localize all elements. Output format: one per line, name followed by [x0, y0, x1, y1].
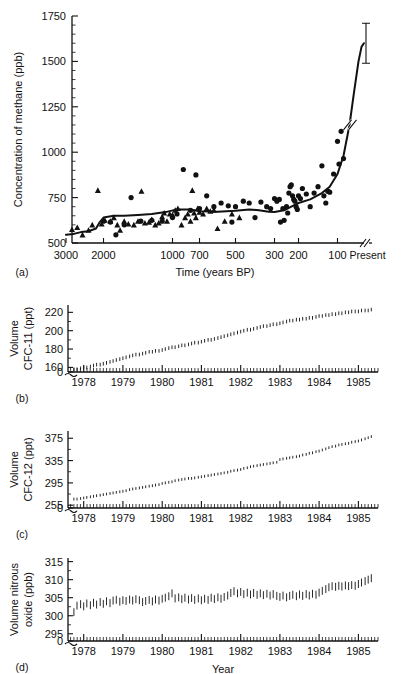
panel-b-x-tick-label: 1980 [150, 376, 174, 388]
panel-c-x-tick-label: 1981 [189, 512, 213, 524]
panel-c-y-tick-label: 295 [45, 477, 63, 489]
panel-b-y-tick-label: 180 [45, 343, 63, 355]
panel-a-y-tick-label: 750 [48, 192, 66, 204]
data-point-circle [300, 186, 305, 191]
data-point-circle [258, 200, 263, 205]
panel-c-y-tick-label: 375 [45, 432, 63, 444]
panel-b-x-tick-label: 1985 [346, 376, 370, 388]
panel-label-c: (c) [16, 528, 28, 540]
panel-a-x-tick-label: 500 [226, 249, 244, 261]
panel-a-y-tick-label: 500 [48, 237, 66, 249]
panel-a-y-tick-label: 1750 [42, 10, 66, 22]
panel-c-y-tick-label: 335 [45, 455, 63, 467]
data-point-circle [315, 184, 320, 189]
data-point-triangle [175, 205, 181, 211]
panel-a-y-tick-label: 1000 [42, 146, 66, 158]
data-point-circle [113, 232, 118, 237]
data-point-triangle [236, 215, 242, 221]
figure-canvas: 5007501000125015001750300020001000700500… [0, 0, 406, 674]
panel-d-y-tick-label: 310 [45, 574, 63, 586]
data-point-circle [335, 139, 340, 144]
panel-c-x-tick-label: 1985 [346, 512, 370, 524]
panel-d-y-axis-title-line2: oxide (ppb) [22, 572, 34, 627]
data-point-circle [304, 191, 309, 196]
data-point-circle [331, 171, 336, 176]
panel-a-x-tick-label: 1000 [160, 249, 184, 261]
data-point-triangle [117, 227, 123, 233]
data-point-triangle [114, 222, 120, 228]
data-point-circle [174, 211, 179, 216]
data-point-circle [233, 204, 238, 209]
panel-d-x-tick-label: 1981 [189, 645, 213, 657]
panel-a-x-tick-label: 300 [265, 249, 283, 261]
panel-c-x-tick-label: 1979 [111, 512, 135, 524]
panel-d-x-tick-label: 1980 [150, 645, 174, 657]
data-point-circle [197, 206, 202, 211]
data-point-triangle [74, 225, 80, 231]
panel-d-y-axis-title-line1: Volume nitrous [8, 563, 20, 636]
panel-a-y-tick-label: 1500 [42, 55, 66, 67]
data-point-circle [289, 182, 294, 187]
panel-c-x-tick-label: 1980 [150, 512, 174, 524]
data-point-circle [160, 219, 165, 224]
panel-c-x-tick-label: 1978 [71, 512, 95, 524]
data-point-circle [319, 163, 324, 168]
panel-c-y-tick-label: 255 [45, 499, 63, 511]
panel-d-x-tick-label: 1978 [71, 645, 95, 657]
panel-b-x-tick-label: 1978 [71, 376, 95, 388]
panel-a-x-tick-label: 100 [328, 249, 346, 261]
panel-label-b: (b) [16, 392, 29, 404]
data-point-triangle [215, 225, 221, 231]
data-point-circle [277, 197, 282, 202]
panel-b-y-axis-title-line1: Volume [8, 320, 20, 357]
data-point-circle [321, 193, 326, 198]
data-point-circle [241, 199, 246, 204]
data-point-triangle [189, 187, 195, 193]
panel-a-x-tick-label: 200 [289, 249, 307, 261]
panel-d-x-tick-label: 1984 [307, 645, 331, 657]
panel-d-y-tick-label: 305 [45, 592, 63, 604]
data-point-circle [282, 218, 287, 223]
data-point-circle [122, 222, 127, 227]
data-point-triangle [138, 188, 144, 194]
data-point-circle [211, 204, 216, 209]
panel-d-x-tick-label: 1979 [111, 645, 135, 657]
panel-c-x-tick-label: 1983 [268, 512, 292, 524]
panel-d-y-tick-label: 295 [45, 628, 63, 640]
panel-d-x-tick-label: 1983 [268, 645, 292, 657]
data-point-triangle [95, 187, 101, 193]
data-point-circle [252, 215, 257, 220]
data-point-triangle [204, 205, 210, 211]
data-point-circle [312, 191, 317, 196]
data-point-circle [138, 219, 143, 224]
data-point-circle [188, 208, 193, 213]
panel-a-x-tick-label: 700 [190, 249, 208, 261]
data-point-circle [204, 193, 209, 198]
data-point-circle [268, 206, 273, 211]
panel-c-x-tick-label: 1984 [307, 512, 331, 524]
data-point-circle [341, 156, 346, 161]
data-point-circle [339, 129, 344, 134]
data-point-circle [149, 218, 154, 223]
panel-d-y-tick-label: 300 [45, 610, 63, 622]
data-point-circle [181, 167, 186, 172]
panel-b-y-axis-title-line2: CFC-11 (ppt) [22, 307, 34, 370]
data-point-circle [229, 220, 234, 225]
data-point-circle [108, 220, 113, 225]
panel-d-y-tick-label: 315 [45, 556, 63, 568]
data-point-circle [292, 199, 297, 204]
panel-c-y-axis-title-line1: Volume [8, 451, 20, 488]
data-point-triangle [89, 222, 95, 228]
panel-b-y-tick-label: 200 [45, 325, 63, 337]
data-point-circle [308, 204, 313, 209]
data-point-circle [285, 210, 290, 215]
panel-a-x-tick-label: 3000 [54, 249, 78, 261]
panel-b-x-tick-label: 1983 [268, 376, 292, 388]
panel-b-x-tick-label: 1982 [228, 376, 252, 388]
data-point-circle [129, 195, 134, 200]
panel-a-x-tick-label: 2000 [91, 249, 115, 261]
data-point-circle [219, 200, 224, 205]
panel-a-y-tick-label: 1250 [42, 101, 66, 113]
panel-b-x-tick-label: 1984 [307, 376, 331, 388]
data-point-circle [193, 172, 198, 177]
